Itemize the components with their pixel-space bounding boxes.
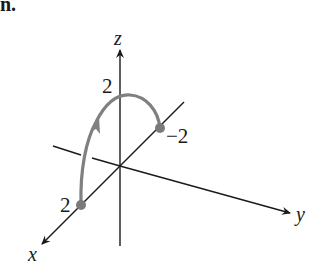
heading-fragment: n. xyxy=(0,0,16,14)
z-axis-label: z xyxy=(114,28,122,48)
z-tick-label: 2 xyxy=(102,76,113,97)
start-point-x2 xyxy=(76,200,86,210)
y-axis-label: y xyxy=(296,204,305,224)
x-axis-label: x xyxy=(28,244,37,264)
3d-axes-diagram xyxy=(0,0,320,272)
end-point-y-neg2 xyxy=(155,123,165,133)
y-axis xyxy=(120,166,290,213)
y-tick-label: −2 xyxy=(166,126,188,147)
x-tick-label: 2 xyxy=(60,195,71,216)
